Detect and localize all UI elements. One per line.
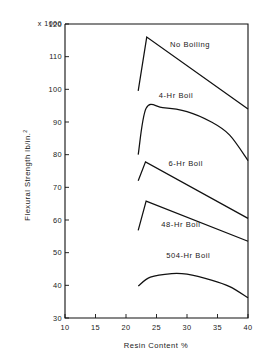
y-axis-ticks: [65, 24, 69, 318]
plot-frame: [65, 24, 248, 318]
series-curve: [138, 104, 248, 160]
figure-container: 30405060708090100110120 10152025303540 x…: [0, 0, 266, 359]
x-axis-tick-labels: 10152025303540: [61, 323, 253, 332]
series-curve: [138, 162, 248, 219]
series-label: 4-Hr Boil: [159, 91, 194, 100]
series-label: No Boiling: [170, 40, 210, 49]
svg-text:Flexural Strength lb/in.2: Flexural Strength lb/in.2: [22, 129, 32, 220]
x-tick-label: 15: [91, 323, 100, 332]
flexural-strength-line-chart: 30405060708090100110120 10152025303540 x…: [0, 0, 266, 359]
y-axis-title: Flexural Strength lb/in.2: [22, 129, 32, 220]
y-axis-scale-note: x 1000: [38, 19, 62, 28]
x-tick-label: 40: [244, 323, 253, 332]
x-tick-label: 35: [213, 323, 222, 332]
y-tick-label: 60: [53, 216, 62, 225]
series-curve: [138, 273, 248, 297]
y-tick-label: 110: [49, 52, 62, 61]
x-tick-label: 20: [122, 323, 131, 332]
y-tick-label: 80: [53, 150, 62, 159]
x-tick-label: 30: [183, 323, 192, 332]
x-tick-label: 10: [61, 323, 70, 332]
y-tick-label: 100: [49, 85, 62, 94]
series-label: 48-Hr Boil: [161, 220, 200, 229]
x-tick-label: 25: [152, 323, 161, 332]
x-axis-title: Resin Content %: [124, 341, 188, 350]
series-label: 504-Hr Boil: [166, 251, 210, 260]
y-tick-label: 40: [53, 281, 62, 290]
y-tick-label: 50: [53, 248, 62, 257]
series-label: 6-Hr Boil: [169, 159, 204, 168]
x-axis-ticks: [65, 314, 248, 318]
series-annotations: No Boiling4-Hr Boil6-Hr Boil48-Hr Boil50…: [159, 40, 210, 260]
y-tick-label: 30: [53, 314, 62, 323]
y-tick-label: 70: [53, 183, 62, 192]
y-axis-tick-labels: 30405060708090100110120: [49, 20, 62, 323]
y-tick-label: 90: [53, 118, 62, 127]
